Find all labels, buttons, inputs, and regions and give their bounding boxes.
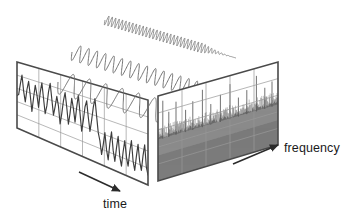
figure-container: time frequency [0,0,346,221]
time-axis-label: time [103,197,127,211]
frequency-axis-label: frequency [284,141,340,155]
time-frequency-diagram: time frequency [0,0,346,221]
